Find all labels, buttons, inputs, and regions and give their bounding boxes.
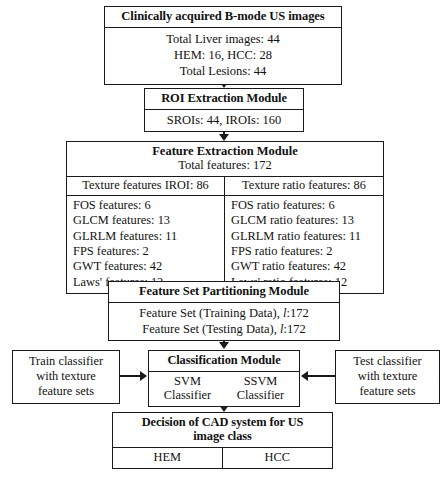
texture-features-list: FOS features: 6 GLCM features: 13 GLRLM … <box>67 196 224 293</box>
testing-set-row: Feature Set (Testing Data), l:172 <box>113 321 335 337</box>
classifier-row: SVM Classifier SSVM Classifier <box>149 372 299 406</box>
train-classifier-line2: with texture <box>15 369 117 384</box>
training-set-prefix: Feature Set (Training Data), <box>139 306 283 320</box>
train-classifier-box: Train classifier with texture feature se… <box>12 350 120 404</box>
glrlm-ratio-features-item: GLRLM ratio features: 11 <box>231 229 380 244</box>
test-classifier-line1: Test classifier <box>338 354 437 369</box>
fps-features-item: FPS features: 2 <box>73 244 221 259</box>
roi-extraction-box: ROI Extraction Module SROIs: 44, IROIs: … <box>144 88 304 132</box>
source-images-box: Clinically acquired B-mode US images Tot… <box>104 6 342 85</box>
svm-classifier-name: SVM <box>151 374 224 389</box>
arrow-roi-to-feature <box>219 134 229 141</box>
decision-header: Decision of CAD system for US image clas… <box>113 413 332 448</box>
classification-module-box: Classification Module SVM Classifier SSV… <box>148 350 300 407</box>
glrlm-features-item: GLRLM features: 11 <box>73 229 221 244</box>
total-lesions-row: Total Lesions: 44 <box>109 63 337 79</box>
testing-set-suffix: :172 <box>283 322 305 336</box>
training-set-row: Feature Set (Training Data), l:172 <box>113 305 335 321</box>
texture-ratio-features-column: Texture ratio features: 86 FOS ratio fea… <box>225 177 383 293</box>
flowchart-diagram: Clinically acquired B-mode US images Tot… <box>0 0 446 482</box>
texture-ratio-features-header: Texture ratio features: 86 <box>225 177 383 196</box>
svm-classifier-label: Classifier <box>151 388 224 403</box>
roi-extraction-stats: SROIs: 44, IROIs: 160 <box>145 110 303 131</box>
source-images-stats: Total Liver images: 44 HEM: 16, HCC: 28 … <box>105 28 341 84</box>
glcm-ratio-features-item: GLCM ratio features: 13 <box>231 213 380 228</box>
fos-features-item: FOS features: 6 <box>73 198 221 213</box>
feature-set-partitioning-box: Feature Set Partitioning Module Feature … <box>108 281 340 341</box>
fps-ratio-features-item: FPS ratio features: 2 <box>231 244 380 259</box>
decision-box: Decision of CAD system for US image clas… <box>112 412 333 469</box>
ssvm-classifier-cell: SSVM Classifier <box>224 374 297 403</box>
test-classifier-line3: feature sets <box>338 384 437 399</box>
feature-extraction-head: Feature Extraction Module Total features… <box>67 142 383 177</box>
connector-test-to-classification <box>308 375 335 377</box>
testing-set-prefix: Feature Set (Testing Data), <box>142 322 280 336</box>
glcm-features-item: GLCM features: 13 <box>73 213 221 228</box>
gwt-ratio-features-item: GWT ratio features: 42 <box>231 259 380 274</box>
test-classifier-box: Test classifier with texture feature set… <box>335 350 440 404</box>
feature-extraction-total: Total features: 172 <box>71 158 379 173</box>
decision-header-line1: Decision of CAD system for US <box>117 415 328 429</box>
hem-hcc-counts-row: HEM: 16, HCC: 28 <box>109 47 337 63</box>
feature-extraction-box: Feature Extraction Module Total features… <box>66 141 384 294</box>
decision-class-hem: HEM <box>113 448 223 468</box>
texture-features-header: Texture features IROI: 86 <box>67 177 224 196</box>
texture-ratio-features-list: FOS ratio features: 6 GLCM ratio feature… <box>225 196 383 293</box>
classification-module-header: Classification Module <box>149 351 299 372</box>
decision-classes-row: HEM HCC <box>113 448 332 468</box>
texture-features-column: Texture features IROI: 86 FOS features: … <box>67 177 225 293</box>
arrow-test-to-classification <box>301 371 308 381</box>
decision-header-line2: image class <box>117 429 328 443</box>
gwt-features-item: GWT features: 42 <box>73 259 221 274</box>
partitioning-rows: Feature Set (Training Data), l:172 Featu… <box>109 303 339 341</box>
fos-ratio-features-item: FOS ratio features: 6 <box>231 198 380 213</box>
feature-extraction-title: Feature Extraction Module <box>71 144 379 158</box>
train-classifier-line3: feature sets <box>15 384 117 399</box>
sroi-iroi-row: SROIs: 44, IROIs: 160 <box>149 112 299 128</box>
source-images-header: Clinically acquired B-mode US images <box>105 7 341 28</box>
figure-caption <box>8 470 438 482</box>
partitioning-header: Feature Set Partitioning Module <box>109 282 339 303</box>
decision-class-hcc: HCC <box>223 448 333 468</box>
roi-extraction-header: ROI Extraction Module <box>145 89 303 110</box>
feature-columns: Texture features IROI: 86 FOS features: … <box>67 177 383 293</box>
train-classifier-line1: Train classifier <box>15 354 117 369</box>
total-liver-images-row: Total Liver images: 44 <box>109 31 337 47</box>
arrow-train-to-classification <box>140 371 147 381</box>
ssvm-classifier-label: Classifier <box>224 388 297 403</box>
connector-train-to-classification <box>120 375 141 377</box>
ssvm-classifier-name: SSVM <box>224 374 297 389</box>
training-set-suffix: :172 <box>286 306 308 320</box>
svm-classifier-cell: SVM Classifier <box>151 374 224 403</box>
arrow-partition-to-classification <box>219 342 229 349</box>
test-classifier-line2: with texture <box>338 369 437 384</box>
